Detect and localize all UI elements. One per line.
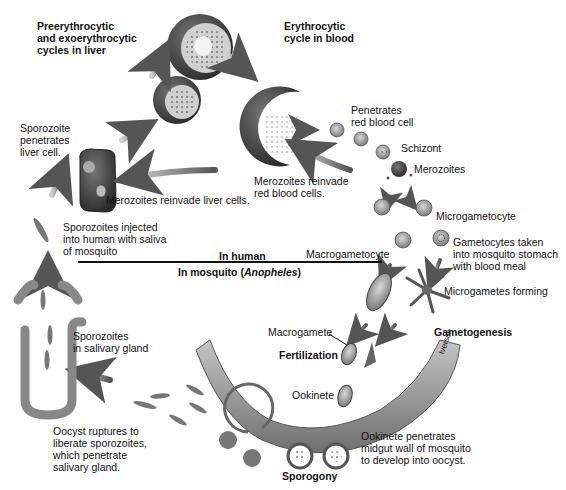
label-in-human: In human <box>219 250 266 262</box>
label-sporogony: Sporogony <box>282 470 337 482</box>
label-schizont: Schizont <box>401 142 441 154</box>
label-microgametes-forming: Microgametes forming <box>444 285 548 297</box>
label-merozoites-reinvade-liver: Merozoites reinvade liver cells. <box>106 194 250 206</box>
liver-schizont-large-icon <box>167 14 233 80</box>
label-oocyst-ruptures: Oocyst ruptures to liberate sporozoites,… <box>53 425 147 473</box>
label-in-mosquito-suffix: ) <box>298 266 302 278</box>
label-in-mosquito: In mosquito (Anopheles) <box>178 266 301 278</box>
label-sporozoite-penetrates: Sporozoite penetrates liver cell. <box>20 122 70 158</box>
label-merozoites: Merozoites <box>414 163 465 175</box>
label-macrogamete: Macrogamete <box>268 326 332 338</box>
liver-schizont-small-icon <box>153 76 201 124</box>
heading-blood-cycle: Erythrocytic cycle in blood <box>284 20 354 44</box>
label-microgametocyte: Microgametocyte <box>436 210 516 222</box>
label-merozoites-reinvade-rbc: Merozoites reinvade red blood cells. <box>254 175 349 199</box>
ruptured-cell-crescent-icon <box>240 86 301 166</box>
label-fertilization: Fertilization <box>279 349 338 361</box>
label-gametocytes-taken: Gametocytes taken into mosquito stomach … <box>453 236 558 272</box>
label-penetrates-rbc: Penetrates red blood cell <box>351 104 413 128</box>
label-macrogametocyte: Macrogametocyte <box>306 248 389 260</box>
heading-liver-cycle: Preerythrocytic and exoerythrocytic cycl… <box>37 20 137 56</box>
label-in-mosquito-prefix: In mosquito ( <box>178 266 244 278</box>
label-sporozoites-salivary: Sporozoites in salivary gland <box>73 330 148 354</box>
label-ookinete-penetrates: Ookinete penetrates midgut wall of mosqu… <box>361 430 471 466</box>
label-sporozoites-injected: Sporozoites injected into human with sal… <box>63 221 166 257</box>
label-ookinete: Ookinete <box>292 389 334 401</box>
label-anopheles: Anopheles <box>244 266 298 278</box>
